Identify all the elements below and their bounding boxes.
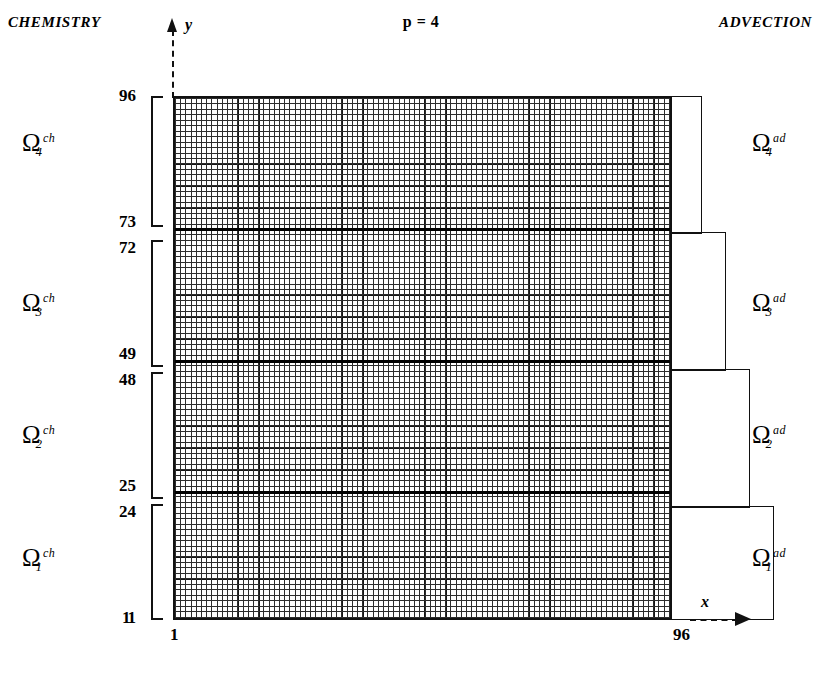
computational-grid (173, 96, 672, 620)
y-tick-24: 24 (90, 502, 136, 522)
y-tick-49: 49 (90, 344, 136, 364)
omega-superscript: ad (773, 423, 786, 437)
omega-superscript: ch (43, 546, 55, 560)
label-omega-ad-3: Ω3ad (752, 290, 786, 318)
omega-superscript: ad (773, 131, 786, 145)
y-tick-73: 73 (90, 212, 136, 232)
chemistry-bracket-4 (151, 96, 163, 227)
omega-superscript: ad (773, 546, 786, 560)
x-max-tick: 96 (673, 625, 690, 645)
omega-superscript: ad (773, 291, 786, 305)
omega-subscript: 2 (36, 436, 43, 451)
advection-bracket-4 (672, 96, 702, 234)
advection-bracket-2 (672, 369, 750, 508)
label-omega-ch-2: Ω2ch (22, 422, 55, 450)
omega-subscript: 2 (766, 436, 773, 451)
omega-superscript: ch (43, 131, 55, 145)
label-omega-ch-3: Ω3ch (22, 290, 55, 318)
subdomain-separator (175, 360, 670, 363)
y-tick-25: 25 (90, 476, 136, 496)
y-tick-1: 1 (90, 608, 136, 628)
grid-lines (175, 98, 670, 618)
subdomain-separator (175, 228, 670, 231)
omega-subscript: 3 (36, 304, 43, 319)
omega-subscript: 1 (766, 559, 773, 574)
omega-subscript: 4 (36, 144, 43, 159)
diagram-canvas: CHEMISTRY p = 4 ADVECTION y x 1 1 96 96 … (0, 0, 822, 674)
omega-subscript: 1 (36, 559, 43, 574)
advection-bracket-3 (672, 232, 726, 371)
label-omega-ch-1: Ω1ch (22, 545, 55, 573)
y-tick-48: 48 (90, 370, 136, 390)
label-omega-ch-4: Ω4ch (22, 130, 55, 158)
chemistry-bracket-3 (151, 240, 163, 367)
x-origin-tick: 1 (170, 625, 179, 645)
y-tick-72: 72 (90, 238, 136, 258)
y-axis-label: y (185, 16, 192, 34)
omega-subscript: 4 (766, 144, 773, 159)
y-axis-line (172, 30, 174, 98)
page-title: p = 4 (0, 13, 822, 31)
p-value-label: p = 4 (403, 13, 440, 30)
advection-heading: ADVECTION (719, 14, 812, 31)
chemistry-bracket-2 (151, 372, 163, 499)
chemistry-bracket-1 (151, 504, 163, 620)
omega-subscript: 3 (766, 304, 773, 319)
label-omega-ad-1: Ω1ad (752, 545, 786, 573)
label-omega-ad-2: Ω2ad (752, 422, 786, 450)
subdomain-separator (175, 491, 670, 494)
omega-superscript: ch (43, 423, 55, 437)
omega-superscript: ch (43, 291, 55, 305)
label-omega-ad-4: Ω4ad (752, 130, 786, 158)
y-tick-96: 96 (90, 86, 136, 106)
